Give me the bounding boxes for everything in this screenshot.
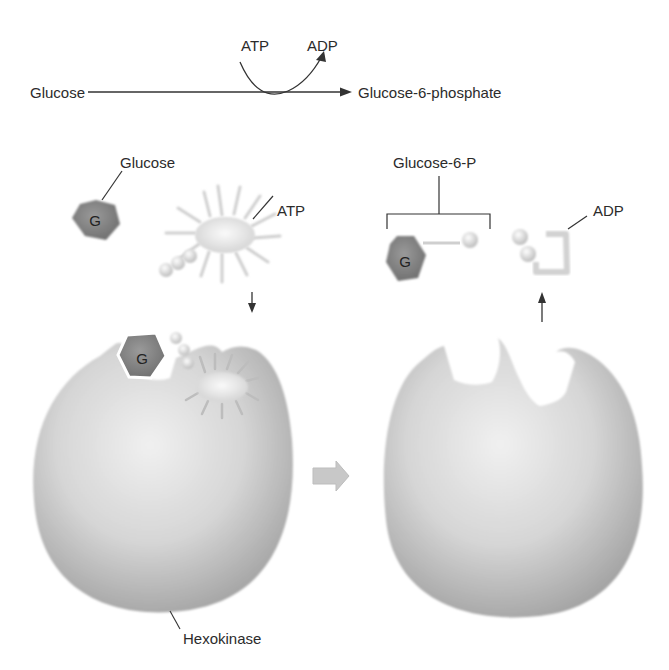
atp-phosphate-3 <box>159 263 173 277</box>
enzyme-body-left <box>33 343 293 613</box>
g6p-bracket <box>387 214 490 229</box>
hexokinase-label: Hexokinase <box>183 631 261 646</box>
down-arrow-icon <box>248 303 256 313</box>
reaction-equation <box>88 51 352 97</box>
free-glucose-molecule: G <box>72 171 122 240</box>
diagram-graphics: G <box>0 0 669 670</box>
free-adp-molecule <box>512 216 587 322</box>
adp-phosphate-1 <box>512 229 528 245</box>
hexokinase-leader-line <box>170 611 180 629</box>
atp-phosphate-2 <box>171 256 185 270</box>
glucose-label: Glucose <box>120 155 175 170</box>
hexokinase-enzyme-bound: G <box>33 332 293 629</box>
atp-phosphate-1 <box>183 249 197 263</box>
adp-label: ADP <box>593 203 624 218</box>
bound-glucose-symbol: G <box>136 350 148 367</box>
glucose-6-phosphate-molecule: G <box>386 176 490 281</box>
adp-body <box>536 234 567 272</box>
bound-atp-body <box>196 372 248 402</box>
glucose-symbol: G <box>89 212 101 229</box>
reaction-atp-label: ATP <box>241 38 269 53</box>
enzyme-body-right <box>384 338 643 617</box>
bound-phosphate-1 <box>170 332 182 344</box>
g6p-symbol: G <box>399 253 411 270</box>
reaction-substrate-label: Glucose <box>30 85 85 100</box>
atp-adp-curve-arrow <box>240 56 322 94</box>
glucose-leader-line <box>102 171 122 200</box>
atp-body <box>195 217 255 253</box>
glucose-6-p-label: Glucose-6-P <box>393 155 476 170</box>
adp-phosphate-2 <box>520 246 536 262</box>
bound-phosphate-2 <box>178 344 190 356</box>
reaction-arrowhead <box>340 88 352 97</box>
adp-leader-line <box>568 216 587 229</box>
up-arrow-icon <box>538 292 546 303</box>
g6p-phosphate <box>462 232 478 248</box>
atp-label: ATP <box>277 203 305 218</box>
bound-phosphate-3 <box>182 357 194 369</box>
transition-arrow-icon <box>313 461 349 491</box>
reaction-adp-label: ADP <box>307 38 338 53</box>
hexokinase-diagram: G <box>0 0 669 670</box>
free-atp-molecule <box>159 186 280 313</box>
reaction-product-label: Glucose-6-phosphate <box>358 85 501 100</box>
